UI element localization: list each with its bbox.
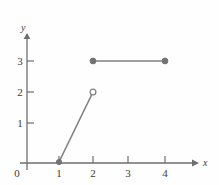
open-point-2-2	[90, 89, 96, 95]
y-tick-label-2: 2	[17, 86, 23, 98]
y-tick-label-1: 1	[17, 117, 23, 129]
origin-tick-label: 0	[14, 167, 20, 179]
closed-point-1-0	[56, 159, 61, 164]
x-axis	[20, 160, 199, 167]
x-tick-label-1: 1	[56, 167, 62, 179]
x-tick-label-4: 4	[162, 167, 168, 179]
y-axis	[24, 33, 31, 170]
x-tick-label-3: 3	[125, 167, 131, 179]
plot-svg: y x 0 1 2 3 1 2 3 4	[0, 0, 219, 185]
closed-point-4-3	[162, 58, 168, 64]
y-axis-arrowhead-icon	[24, 33, 31, 39]
piecewise-function-graph: y x 0 1 2 3 1 2 3 4	[0, 0, 219, 185]
y-tick-label-3: 3	[17, 55, 23, 67]
closed-point-2-3	[90, 58, 96, 64]
ramp-segment	[59, 92, 93, 162]
x-axis-ticks: 1 2 3 4	[56, 156, 168, 179]
x-tick-label-2: 2	[90, 167, 96, 179]
y-axis-ticks: 1 2 3	[17, 55, 34, 129]
y-axis-label: y	[20, 22, 26, 33]
x-axis-arrowhead-icon	[192, 160, 199, 167]
x-axis-label: x	[202, 157, 208, 168]
